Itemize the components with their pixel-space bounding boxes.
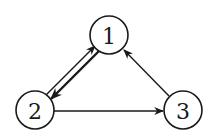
edge-3-to-1 — [124, 50, 169, 96]
edge-2-to-1 — [46, 46, 95, 95]
node-2-label: 2 — [28, 99, 42, 124]
graph-svg: 1 2 3 — [0, 0, 213, 140]
node-1: 1 — [90, 16, 128, 54]
node-3-label: 3 — [176, 99, 190, 124]
graph-diagram: 1 2 3 — [0, 0, 213, 140]
node-1-label: 1 — [102, 24, 116, 49]
edge-1-to-2 — [51, 51, 99, 99]
node-3: 3 — [164, 91, 202, 129]
node-2: 2 — [16, 91, 54, 129]
